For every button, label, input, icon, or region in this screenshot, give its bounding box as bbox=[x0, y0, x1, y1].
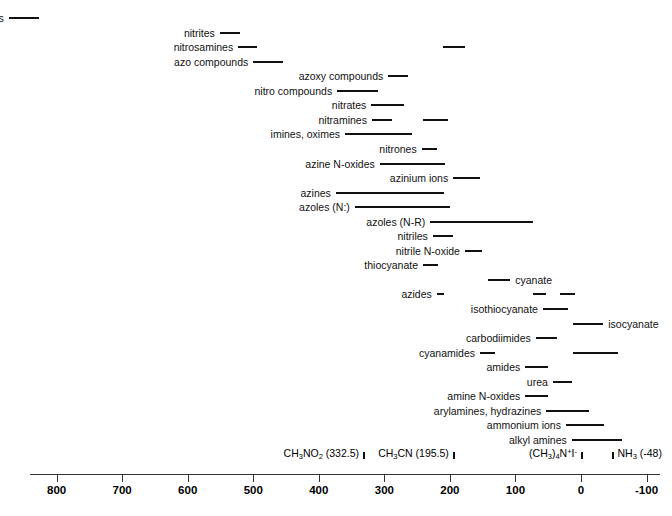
range-bar bbox=[238, 46, 257, 48]
reference-label: CH3NO2 (332.5) bbox=[284, 447, 359, 461]
axis-tick bbox=[122, 474, 123, 482]
range-bar bbox=[355, 206, 450, 208]
axis-tick bbox=[515, 474, 516, 482]
range-bar bbox=[423, 119, 448, 121]
range-bar bbox=[372, 119, 392, 121]
range-bar bbox=[443, 46, 465, 48]
range-bar bbox=[388, 75, 408, 77]
range-bar bbox=[337, 90, 378, 92]
axis-tick-label: 400 bbox=[309, 484, 328, 496]
reference-label: NH3 (-48) bbox=[617, 447, 661, 461]
range-bar bbox=[573, 323, 603, 325]
range-bar bbox=[437, 293, 444, 295]
axis-tick-label: -100 bbox=[635, 484, 658, 496]
range-bar bbox=[423, 264, 438, 266]
range-bar bbox=[336, 192, 444, 194]
range-bar bbox=[253, 61, 282, 63]
reference-marker bbox=[453, 452, 455, 459]
axis-tick-label: 300 bbox=[375, 484, 394, 496]
axis-tick bbox=[57, 474, 58, 482]
range-bar bbox=[480, 352, 495, 354]
range-bar bbox=[543, 308, 568, 310]
range-bar bbox=[453, 177, 480, 179]
range-bar bbox=[9, 17, 39, 19]
range-bar bbox=[573, 352, 618, 354]
reference-label: CH3CN (195.5) bbox=[378, 447, 449, 461]
range-bar bbox=[553, 381, 572, 383]
axis-tick bbox=[384, 474, 385, 482]
range-bar bbox=[525, 366, 548, 368]
reference-marker bbox=[581, 452, 583, 459]
range-bar bbox=[546, 410, 589, 412]
reference-marker bbox=[363, 452, 365, 459]
axis-tick bbox=[647, 474, 648, 482]
axis-tick-label: 800 bbox=[47, 484, 66, 496]
range-bar bbox=[220, 32, 240, 34]
range-bar bbox=[422, 148, 437, 150]
axis-tick bbox=[319, 474, 320, 482]
reference-label: (CH3)4N+I- bbox=[529, 447, 577, 461]
range-bar bbox=[560, 293, 575, 295]
range-bar bbox=[380, 163, 446, 165]
axis-tick-label: 500 bbox=[244, 484, 263, 496]
axis-tick-label: 700 bbox=[113, 484, 132, 496]
axis-tick bbox=[450, 474, 451, 482]
axis-tick-label: 600 bbox=[178, 484, 197, 496]
range-bar bbox=[465, 250, 482, 252]
axis-tick bbox=[253, 474, 254, 482]
range-bar bbox=[430, 221, 533, 223]
nitrogen-chemical-shift-chart: nitroso compoundsnitritesnitrosaminesazo… bbox=[0, 0, 672, 516]
range-bar bbox=[566, 424, 604, 426]
range-bar bbox=[488, 279, 510, 281]
range-bar bbox=[345, 133, 412, 135]
range-bar bbox=[433, 235, 453, 237]
reference-marker bbox=[612, 452, 614, 459]
axis-tick bbox=[581, 474, 582, 482]
range-bar bbox=[572, 439, 622, 441]
range-bar bbox=[536, 337, 557, 339]
x-axis-line bbox=[30, 474, 660, 475]
range-bar bbox=[525, 395, 548, 397]
range-bar bbox=[371, 104, 404, 106]
axis-tick-label: 100 bbox=[506, 484, 525, 496]
axis-tick-label: 200 bbox=[440, 484, 459, 496]
range-bar bbox=[533, 293, 546, 295]
axis-tick bbox=[188, 474, 189, 482]
axis-tick-label: 0 bbox=[578, 484, 584, 496]
